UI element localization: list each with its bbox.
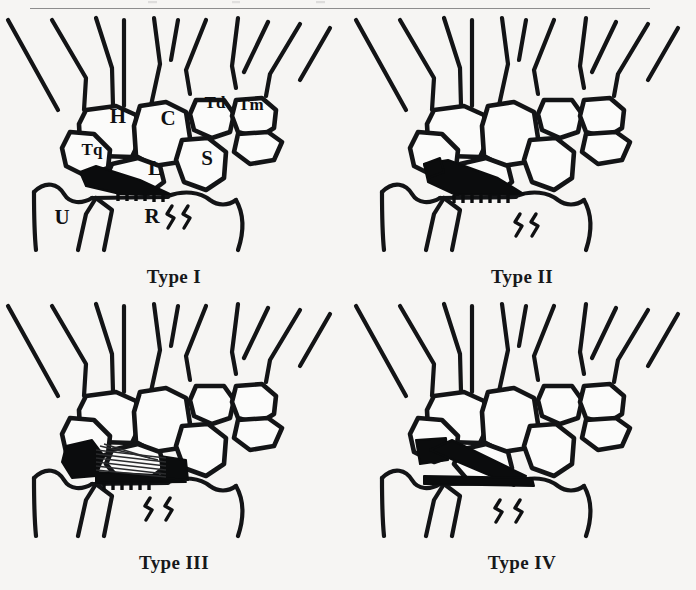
bone-trapezoid	[190, 386, 234, 424]
bone-metacarpal-base-ulnar	[582, 132, 630, 164]
label-trapezoid: Td	[205, 93, 226, 112]
metacarpal-rays	[356, 304, 678, 396]
figure-root: H C Td Tm Tq L S U R Type I	[0, 0, 696, 590]
arrow-markers	[515, 214, 538, 236]
bone-scaphoid	[524, 138, 574, 190]
metacarpal-rays	[8, 304, 330, 396]
arrow-markers	[167, 206, 190, 228]
label-hamate: H	[110, 104, 126, 128]
panel-type-1: H C Td Tm Tq L S U R Type I	[0, 14, 348, 294]
header-rule	[30, 8, 650, 9]
bone-metacarpal-base-ulnar	[234, 418, 282, 450]
metacarpal-rays	[8, 18, 330, 110]
metacarpal-rays	[356, 18, 678, 110]
bone-scaphoid	[524, 424, 574, 476]
label-radius: R	[144, 204, 160, 228]
caption-type-4: Type IV	[348, 552, 696, 574]
bone-metacarpal-base-ulnar	[582, 418, 630, 450]
panel-type-4: Type IV	[348, 300, 696, 580]
panel-type-3: Type III	[0, 300, 348, 580]
caption-type-2: Type II	[348, 266, 696, 288]
wrist-drawing-type-3	[0, 300, 348, 545]
label-capitate: C	[160, 106, 175, 130]
arrow-markers	[495, 500, 522, 522]
caption-type-1: Type I	[0, 266, 348, 288]
scan-artifact-strip	[0, 0, 696, 8]
panel-type-2: Type II	[348, 14, 696, 294]
label-lunate: L	[148, 156, 162, 180]
label-scaphoid: S	[201, 146, 213, 170]
bone-metacarpal-base-ulnar	[234, 132, 282, 164]
label-trapezium: Tm	[238, 95, 264, 114]
radiocarpal-joint-line	[440, 197, 516, 198]
radiocarpal-joint-line	[92, 197, 168, 198]
wrist-drawing-type-1: H C Td Tm Tq L S U R	[0, 14, 348, 259]
wrist-drawing-type-4	[348, 300, 696, 545]
wrist-drawing-type-2	[348, 14, 696, 259]
bone-trapezoid	[538, 386, 582, 424]
caption-type-3: Type III	[0, 552, 348, 574]
arrow-markers	[145, 498, 172, 520]
bone-trapezoid	[538, 100, 582, 138]
label-triquetrum: Tq	[82, 140, 103, 159]
label-ulna: U	[54, 205, 69, 229]
